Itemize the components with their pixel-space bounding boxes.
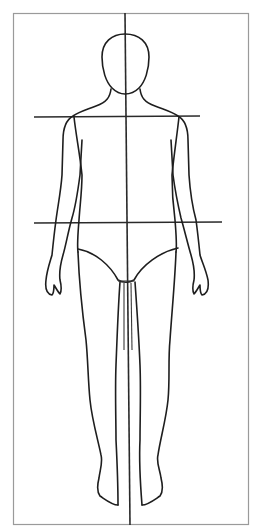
- hip-guide-line: [34, 222, 222, 223]
- left-leg-outer: [78, 252, 118, 505]
- left-leg-inner: [116, 282, 120, 505]
- right-leg-inner: [135, 282, 142, 505]
- body-figure-drawing: [0, 0, 262, 530]
- torso-right-side: [172, 117, 179, 252]
- right-leg-outer: [142, 252, 176, 505]
- center-vertical-guide: [125, 13, 130, 525]
- shoulder-guide-line: [34, 116, 200, 117]
- croquis-canvas: [0, 0, 262, 530]
- right-neck-shoulder: [140, 89, 208, 295]
- right-inner-guide: [131, 283, 132, 350]
